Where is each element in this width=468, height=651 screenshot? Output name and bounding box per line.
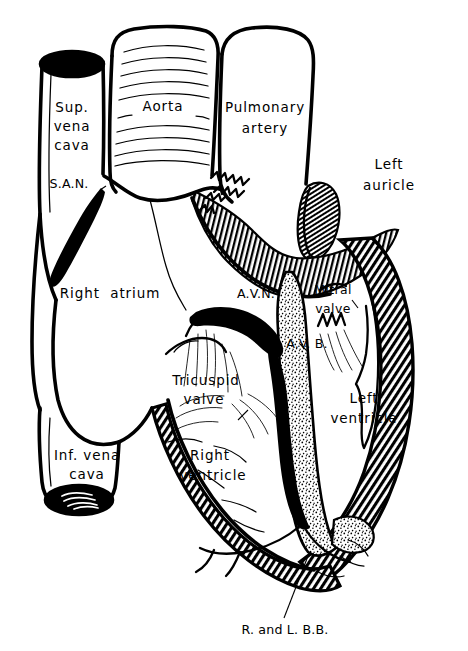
label-aorta: Aorta <box>143 98 184 114</box>
label-san: S.A.N. <box>49 176 88 191</box>
svg-text:Right: Right <box>190 447 230 463</box>
label-right-atrium: Right atrium <box>60 285 160 301</box>
svg-text:Tricuspid: Tricuspid <box>171 372 240 388</box>
label-left-auricle: Left auricle <box>363 156 415 193</box>
label-avb: A.V. B. <box>286 336 327 351</box>
svg-text:valve: valve <box>184 391 225 407</box>
svg-text:Sup.: Sup. <box>55 99 89 115</box>
svg-text:Inf. vena: Inf. vena <box>54 447 120 463</box>
label-avn: A.V.N. <box>237 286 275 301</box>
svg-text:cava: cava <box>54 137 90 153</box>
svg-text:ventricle: ventricle <box>330 410 397 426</box>
label-tricuspid-valve: Tricuspid valve <box>171 372 240 407</box>
svg-text:valve: valve <box>315 301 350 316</box>
label-bundle-branches: R. and L. B.B. <box>241 622 328 637</box>
mitral-valve <box>318 284 362 372</box>
left-auricle <box>298 183 340 261</box>
svg-text:vena: vena <box>54 118 91 134</box>
svg-text:auricle: auricle <box>363 177 415 193</box>
svg-text:cava: cava <box>69 466 105 482</box>
label-inf-vena-cava: Inf. vena cava <box>54 447 120 482</box>
heart-diagram-figure: Sup. vena cava Aorta Pulmonary artery Le… <box>0 0 468 651</box>
label-pulmonary-artery: Pulmonary artery <box>225 99 305 136</box>
heart-anatomy-illustration: Sup. vena cava Aorta Pulmonary artery Le… <box>0 0 468 651</box>
svg-text:Mitral: Mitral <box>314 282 352 297</box>
svg-text:Left: Left <box>375 156 404 172</box>
label-mitral-valve: Mitral valve <box>314 282 352 316</box>
sinoatrial-node <box>50 188 105 287</box>
svg-text:Left: Left <box>350 390 379 406</box>
label-sup-vena-cava: Sup. vena cava <box>54 99 91 153</box>
svg-text:Pulmonary: Pulmonary <box>225 99 305 115</box>
svg-text:artery: artery <box>242 120 288 136</box>
svg-text:ventricle: ventricle <box>179 467 246 483</box>
